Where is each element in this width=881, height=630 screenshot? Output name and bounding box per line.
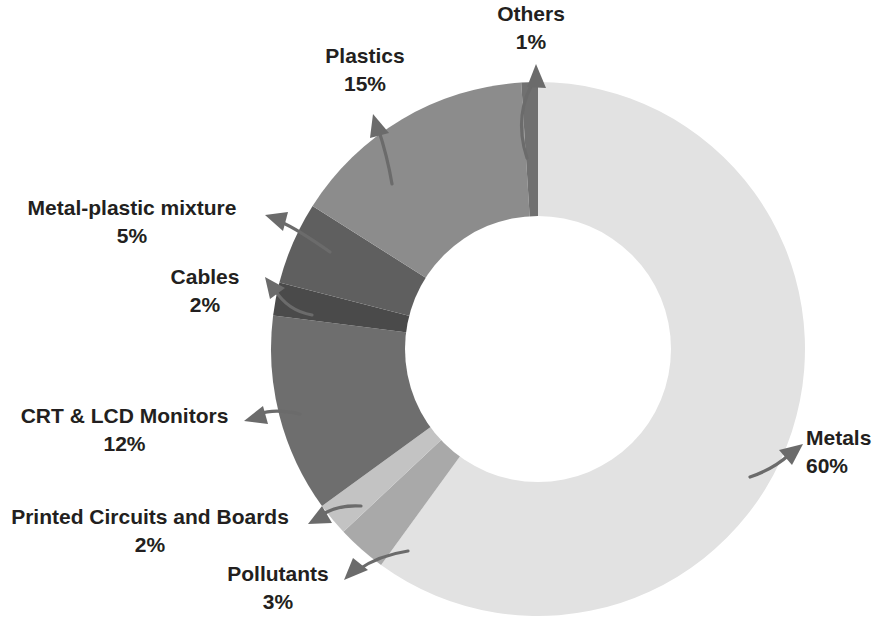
callout-plastics-category: Plastics [265,42,465,70]
doughnut-hole [405,216,671,482]
callout-metals: Metals 60% [806,424,881,479]
callout-crt-lcd-monitors-category: CRT & LCD Monitors [12,402,237,430]
callout-cables-value: 2% [155,291,255,319]
callout-metal-plastic-mixture-category: Metal-plastic mixture [12,194,252,222]
callout-printed-circuits-and-boards-value: 2% [0,531,300,559]
callout-metal-plastic-mixture: Metal-plastic mixture 5% [12,194,252,249]
callout-metal-plastic-mixture-value: 5% [12,222,252,250]
callout-cables: Cables 2% [155,263,255,318]
callout-plastics-value: 15% [265,70,465,98]
callout-crt-lcd-monitors: CRT & LCD Monitors 12% [12,402,237,457]
callout-others-category: Others [406,0,656,28]
callout-pollutants: Pollutants 3% [203,560,353,615]
callout-pollutants-value: 3% [203,588,353,616]
callout-printed-circuits-and-boards-category: Printed Circuits and Boards [0,503,300,531]
callout-printed-circuits-and-boards: Printed Circuits and Boards 2% [0,503,300,558]
callout-cables-category: Cables [155,263,255,291]
callout-metals-category: Metals [806,424,881,452]
callout-crt-lcd-monitors-value: 12% [12,430,237,458]
callout-pollutants-category: Pollutants [203,560,353,588]
callout-metals-value: 60% [806,452,881,480]
doughnut-chart: Others 1% Plastics 15% Metal-plastic mix… [0,0,881,630]
callout-plastics: Plastics 15% [265,42,465,97]
